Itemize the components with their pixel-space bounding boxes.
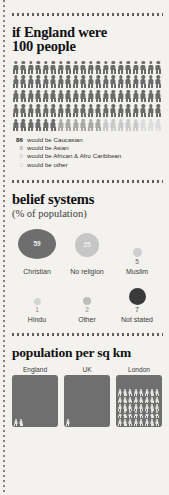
person-icon bbox=[125, 118, 133, 132]
person-icon bbox=[65, 60, 73, 74]
person-icon bbox=[35, 60, 43, 74]
person-icon bbox=[20, 60, 28, 74]
person-icon bbox=[20, 118, 28, 132]
belief-value: 5 bbox=[135, 258, 139, 266]
content-column: if England were 100 people 86would be Ca… bbox=[12, 0, 163, 495]
person-icon bbox=[80, 89, 88, 103]
belief-value: 1 bbox=[35, 306, 39, 314]
person-icon bbox=[125, 74, 133, 88]
person-icon bbox=[50, 118, 58, 132]
legend-row: 3would be other bbox=[12, 161, 163, 169]
person-icon bbox=[57, 118, 65, 132]
person-icon bbox=[140, 103, 148, 117]
person-icon bbox=[72, 89, 80, 103]
people-pictogram-grid bbox=[12, 60, 162, 132]
belief-item: 7Not stated bbox=[112, 277, 162, 323]
person-icon bbox=[20, 74, 28, 88]
person-icon bbox=[27, 103, 35, 117]
belief-bubble bbox=[133, 248, 142, 257]
legend-value: 5 bbox=[12, 152, 23, 160]
legend-row: 5would be African & Afro Caribbean bbox=[12, 152, 163, 160]
person-icon bbox=[155, 60, 163, 74]
legend-label: would be Asian bbox=[27, 144, 69, 152]
belief-label: Muslim bbox=[126, 268, 148, 275]
person-icon bbox=[132, 103, 140, 117]
person-icon bbox=[72, 118, 80, 132]
person-icon bbox=[65, 118, 73, 132]
person-icon bbox=[12, 74, 20, 88]
person-icon bbox=[35, 89, 43, 103]
person-icon bbox=[117, 74, 125, 88]
belief-bubble bbox=[129, 288, 146, 305]
person-icon bbox=[87, 60, 95, 74]
infographic-page: if England were 100 people 86would be Ca… bbox=[0, 0, 169, 495]
density-panel-label: England bbox=[12, 366, 58, 373]
density-panel-box bbox=[12, 375, 58, 427]
person-icon bbox=[50, 60, 58, 74]
person-icon bbox=[80, 103, 88, 117]
person-icon bbox=[42, 60, 50, 74]
belief-bubble bbox=[83, 297, 91, 305]
density-panel: London bbox=[116, 366, 162, 427]
density-section-title: population per sq km bbox=[12, 346, 163, 360]
person-icon bbox=[87, 103, 95, 117]
density-figure-icon bbox=[155, 396, 160, 403]
density-panel: UK bbox=[64, 366, 110, 427]
person-icon bbox=[117, 118, 125, 132]
person-icon bbox=[155, 74, 163, 88]
person-icon bbox=[42, 103, 50, 117]
person-icon bbox=[72, 60, 80, 74]
legend-row: 86would be Caucasian bbox=[12, 136, 163, 144]
belief-value: 2 bbox=[85, 306, 89, 314]
person-icon bbox=[102, 89, 110, 103]
person-icon bbox=[72, 103, 80, 117]
belief-item: 1Hindu bbox=[12, 277, 62, 323]
belief-item: 59Christian bbox=[12, 229, 62, 275]
belief-bubble bbox=[34, 298, 41, 305]
belief-bubble: 59 bbox=[18, 229, 56, 259]
person-icon bbox=[147, 74, 155, 88]
person-icon bbox=[140, 89, 148, 103]
person-icon bbox=[12, 103, 20, 117]
person-icon bbox=[35, 74, 43, 88]
person-icon bbox=[147, 89, 155, 103]
belief-subtitle: (% of population) bbox=[12, 208, 163, 219]
person-icon bbox=[140, 60, 148, 74]
belief-value: 7 bbox=[135, 306, 139, 314]
person-icon bbox=[140, 74, 148, 88]
density-figure-icon bbox=[65, 418, 70, 425]
person-icon bbox=[95, 103, 103, 117]
density-panel-label: UK bbox=[64, 366, 110, 373]
person-icon bbox=[20, 103, 28, 117]
density-figure-group bbox=[64, 375, 110, 427]
people-title-line1: if England were bbox=[12, 25, 163, 39]
person-icon bbox=[125, 103, 133, 117]
divider-top bbox=[12, 13, 163, 16]
legend-value: 86 bbox=[12, 136, 23, 144]
person-icon bbox=[125, 89, 133, 103]
density-figure-group bbox=[116, 375, 162, 427]
density-panel-box bbox=[116, 375, 162, 427]
belief-label: Hindu bbox=[28, 316, 46, 323]
person-icon bbox=[72, 74, 80, 88]
person-icon bbox=[12, 89, 20, 103]
person-icon bbox=[117, 89, 125, 103]
person-icon bbox=[132, 89, 140, 103]
person-icon bbox=[155, 89, 163, 103]
person-icon bbox=[57, 103, 65, 117]
people-section-title: if England were 100 people bbox=[12, 25, 163, 53]
belief-label: Other bbox=[78, 316, 96, 323]
person-icon bbox=[65, 103, 73, 117]
divider-belief bbox=[12, 180, 163, 183]
person-icon bbox=[155, 118, 163, 132]
person-icon bbox=[95, 74, 103, 88]
person-icon bbox=[65, 89, 73, 103]
belief-item: 25No religion bbox=[62, 229, 112, 275]
belief-label: Christian bbox=[23, 268, 51, 275]
density-panel: England bbox=[12, 366, 58, 427]
person-icon bbox=[42, 118, 50, 132]
people-title-line2: 100 people bbox=[12, 39, 163, 53]
belief-bubble-chart: 59Christian25No religion5Muslim 1Hindu2O… bbox=[12, 229, 163, 323]
belief-bubble: 25 bbox=[75, 233, 99, 257]
person-icon bbox=[50, 103, 58, 117]
